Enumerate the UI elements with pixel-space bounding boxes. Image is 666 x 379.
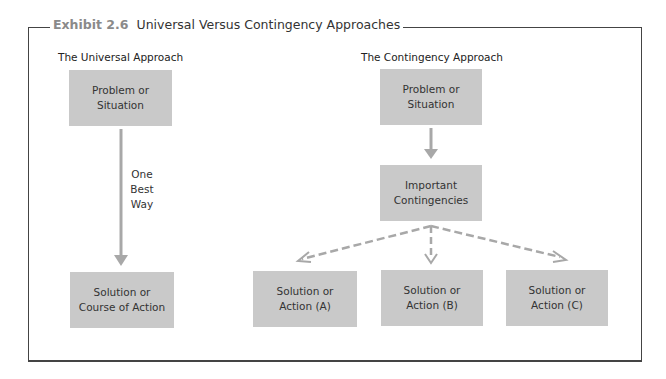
universal-solution-text: Solution or Course of Action: [79, 285, 165, 315]
universal-problem-box: Problem or Situation: [69, 70, 172, 126]
solution-c-box: Solution or Action (C): [506, 270, 608, 326]
solution-a-text: Solution or Action (A): [277, 284, 334, 314]
contingency-problem-box: Problem or Situation: [380, 69, 482, 125]
important-contingencies-text: Important Contingencies: [394, 178, 469, 208]
solution-a-box: Solution or Action (A): [253, 271, 357, 327]
solution-c-text: Solution or Action (C): [529, 283, 586, 313]
important-contingencies-box: Important Contingencies: [380, 165, 482, 221]
universal-solution-box: Solution or Course of Action: [70, 272, 174, 328]
contingency-problem-text: Problem or Situation: [402, 82, 459, 112]
universal-problem-text: Problem or Situation: [92, 83, 149, 113]
solution-b-box: Solution or Action (B): [381, 270, 483, 326]
universal-approach-label: The Universal Approach: [58, 51, 183, 63]
one-best-way-label: One Best Way: [128, 167, 156, 212]
contingency-approach-label: The Contingency Approach: [361, 51, 503, 63]
solution-b-text: Solution or Action (B): [404, 283, 461, 313]
